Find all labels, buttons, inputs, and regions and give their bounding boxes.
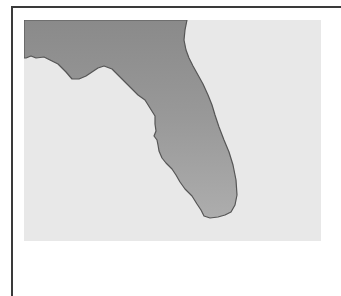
map-canvas[interactable] (24, 20, 321, 241)
florida-land-shape (24, 20, 237, 218)
florida-landmass (24, 20, 321, 241)
